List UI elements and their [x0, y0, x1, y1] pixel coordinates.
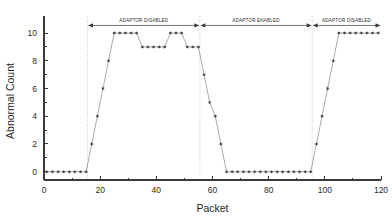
data-point-marker [90, 142, 93, 146]
x-axis-title: Packet [196, 202, 228, 214]
data-point-marker [208, 100, 211, 104]
y-tick-label-4: 4 [32, 111, 37, 121]
annotation-arrowhead-right [307, 23, 312, 27]
x-tick-label-20: 20 [95, 185, 105, 195]
annotation-1: ADAPTOR ENABLED [200, 18, 311, 27]
x-tick-label-60: 60 [208, 185, 218, 195]
annotation-label: ADAPTOR DISABLED [322, 18, 372, 23]
y-axis-title: Abnormal Count [4, 63, 16, 139]
x-tick-label-120: 120 [374, 185, 388, 195]
annotation-arrowhead-right [194, 23, 199, 27]
annotation-label: ADAPTOR ENABLED [232, 18, 280, 23]
abnormal-count-scatter-plot: ADAPTOR DISABLEDADAPTOR ENABLEDADAPTOR D… [0, 0, 392, 223]
data-point-marker [107, 59, 110, 63]
y-tick-label-8: 8 [32, 56, 37, 66]
data-point-marker [96, 114, 99, 118]
x-tick-label-100: 100 [318, 185, 332, 195]
y-tick-label-0: 0 [32, 167, 37, 177]
data-series-layer [45, 31, 380, 174]
chart-container: ADAPTOR DISABLEDADAPTOR ENABLEDADAPTOR D… [0, 0, 392, 223]
data-point-marker [219, 142, 222, 146]
data-point-marker [332, 59, 335, 63]
data-point-marker [326, 87, 329, 91]
separator-layer [88, 16, 313, 180]
y-tick-label-6: 6 [32, 84, 37, 94]
annotation-0: ADAPTOR DISABLED [88, 18, 199, 27]
y-tick-label-2: 2 [32, 139, 37, 149]
x-tick-label-80: 80 [264, 185, 274, 195]
data-point-marker [202, 73, 205, 77]
annotation-arrowhead-left [200, 23, 205, 27]
annotation-2: ADAPTOR DISABLED [313, 18, 381, 27]
annotation-layer: ADAPTOR DISABLEDADAPTOR ENABLEDADAPTOR D… [88, 18, 380, 27]
data-point-marker [214, 114, 217, 118]
annotation-arrowhead-right [376, 23, 381, 27]
y-tick-label-10: 10 [28, 28, 38, 38]
x-tick-label-40: 40 [152, 185, 162, 195]
data-point-marker [315, 142, 318, 146]
annotation-label: ADAPTOR DISABLED [119, 18, 169, 23]
axis-layer [44, 16, 381, 180]
annotation-arrowhead-left [313, 23, 318, 27]
annotation-arrowhead-left [88, 23, 93, 27]
axis-label-layer: 0204060801001200246810PacketAbnormal Cou… [4, 28, 388, 214]
x-tick-label-0: 0 [42, 185, 47, 195]
data-point-marker [320, 114, 323, 118]
data-point-marker [101, 87, 104, 91]
series-line-0 [47, 33, 378, 172]
